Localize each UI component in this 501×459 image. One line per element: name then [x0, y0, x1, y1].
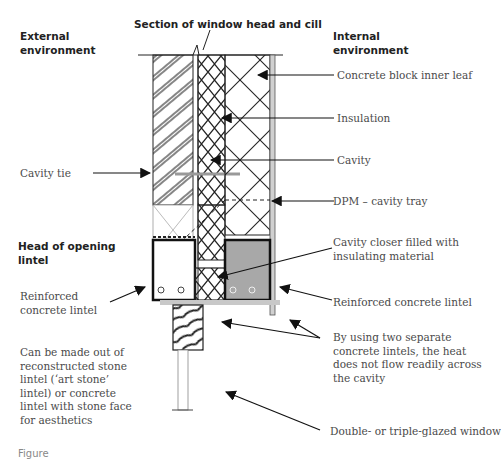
heading-internal-environment: Internal environment: [333, 30, 418, 57]
window-frame: [173, 305, 203, 350]
diagram-title: Section of window head and cill: [134, 18, 322, 32]
insulation-layer: [198, 55, 225, 205]
heading-head-of-opening: Head of opening lintel: [18, 240, 118, 267]
heading-external-environment: External environment: [20, 30, 105, 57]
label-insulation: Insulation: [337, 112, 390, 126]
glazing: [178, 350, 188, 410]
label-lintel-left: Reinforced concrete lintel: [20, 290, 120, 317]
figure-caption: Figure: [18, 448, 49, 459]
label-glazed-window: Double- or triple-glazed window: [330, 425, 501, 439]
inner-leaf-block: [225, 55, 270, 235]
label-cavity-tie: Cavity tie: [20, 167, 71, 181]
label-concrete-block: Concrete block inner leaf: [337, 69, 472, 83]
label-cavity-closer: Cavity closer filled with insulating mat…: [333, 236, 483, 263]
label-stone-lintel: Can be made out of reconstructed stone l…: [20, 346, 135, 427]
label-dpm: DPM – cavity tray: [333, 195, 428, 209]
outer-leaf-brick: [153, 55, 193, 255]
label-lintel-right: Reinforced concrete lintel: [333, 296, 472, 310]
external-lintel: [153, 240, 195, 300]
label-cavity: Cavity: [337, 154, 371, 168]
label-two-lintels: By using two separate concrete lintels, …: [333, 331, 483, 385]
